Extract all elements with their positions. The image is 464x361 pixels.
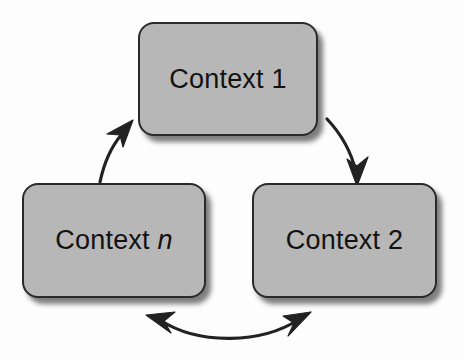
arrowhead-into-context-n <box>146 312 175 333</box>
connector-context-1-to-context-2 <box>327 119 368 186</box>
node-context-1[interactable]: Context 1 <box>138 22 318 136</box>
connector-context-2-to-context-n <box>146 312 311 338</box>
node-context-n[interactable]: Context n <box>22 183 206 298</box>
node-context-n-label: Context n <box>55 227 172 254</box>
node-context-2[interactable]: Context 2 <box>252 183 437 298</box>
context-cycle-diagram: Context 1 Context n Context 2 <box>0 0 464 361</box>
node-context-2-label: Context 2 <box>286 227 403 254</box>
arrowhead-into-context-1 <box>107 120 133 147</box>
node-context-1-label: Context 1 <box>169 66 286 93</box>
arrowhead-into-context-2 <box>347 157 368 186</box>
arrowhead-into-context-2-bottom <box>283 312 311 336</box>
connector-context-n-to-context-1 <box>100 120 133 182</box>
